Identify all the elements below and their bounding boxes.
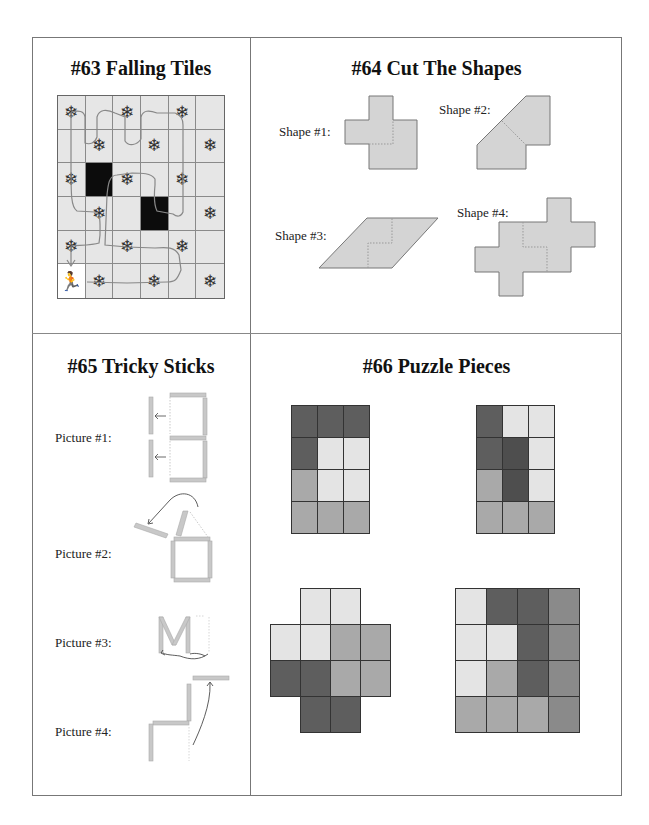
puzzle-pieces-grid-4 <box>456 589 580 733</box>
piece-cell <box>476 437 503 470</box>
puzzle-pieces-grid-2 <box>477 406 555 534</box>
empty-cell <box>270 588 301 625</box>
piece-cell <box>317 405 344 438</box>
piece-cell <box>360 660 391 697</box>
piece-cell <box>486 660 518 697</box>
empty-cell <box>360 588 391 625</box>
empty-cell <box>270 696 301 733</box>
piece-cell <box>343 501 370 534</box>
piece-cell <box>502 405 529 438</box>
piece-cell <box>291 469 318 502</box>
piece-cell <box>548 624 580 661</box>
piece-cell <box>317 469 344 502</box>
piece-cell <box>343 405 370 438</box>
puzzle-pieces-grid-3 <box>271 589 391 733</box>
piece-cell <box>548 660 580 697</box>
piece-cell <box>528 437 555 470</box>
piece-cell <box>343 469 370 502</box>
piece-cell <box>548 588 580 625</box>
piece-cell <box>476 469 503 502</box>
piece-cell <box>528 405 555 438</box>
piece-cell <box>330 588 361 625</box>
piece-cell <box>517 696 549 733</box>
piece-cell <box>517 660 549 697</box>
piece-cell <box>486 588 518 625</box>
empty-cell <box>360 696 391 733</box>
piece-cell <box>455 588 487 625</box>
piece-cell <box>528 469 555 502</box>
piece-cell <box>517 624 549 661</box>
piece-cell <box>270 624 301 661</box>
piece-cell <box>300 588 331 625</box>
puzzle-66-title: #66 Puzzle Pieces <box>251 355 622 378</box>
puzzle-pieces-grid-1 <box>292 406 370 534</box>
piece-cell <box>548 696 580 733</box>
piece-cell <box>291 501 318 534</box>
piece-cell <box>502 469 529 502</box>
piece-cell <box>502 437 529 470</box>
piece-cell <box>486 696 518 733</box>
piece-cell <box>270 660 301 697</box>
piece-cell <box>317 437 344 470</box>
piece-cell <box>517 588 549 625</box>
piece-cell <box>317 501 344 534</box>
piece-cell <box>330 696 361 733</box>
piece-cell <box>300 696 331 733</box>
piece-cell <box>486 624 518 661</box>
piece-cell <box>343 437 370 470</box>
piece-cell <box>330 660 361 697</box>
piece-cell <box>300 624 331 661</box>
piece-cell <box>502 501 529 534</box>
piece-cell <box>291 405 318 438</box>
piece-cell <box>528 501 555 534</box>
piece-cell <box>455 696 487 733</box>
piece-cell <box>455 624 487 661</box>
piece-cell <box>476 405 503 438</box>
piece-cell <box>360 624 391 661</box>
piece-cell <box>300 660 331 697</box>
piece-cell <box>455 660 487 697</box>
piece-cell <box>476 501 503 534</box>
piece-cell <box>291 437 318 470</box>
piece-cell <box>330 624 361 661</box>
